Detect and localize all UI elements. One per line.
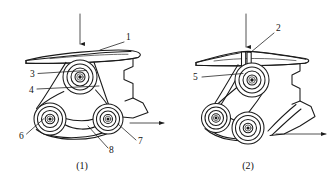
callout-number-8: 8	[109, 145, 114, 155]
callout-number-5: 5	[193, 72, 198, 82]
leader-2	[251, 33, 275, 53]
panel2-top-pulley	[235, 63, 269, 97]
callout-number-4: 4	[29, 85, 34, 95]
panel-2: 2 5 (2)	[193, 14, 326, 172]
figure-root: 1 3 4 6 7 8 (1)	[0, 0, 336, 185]
panel1-left-pulley	[34, 103, 66, 135]
leader-1	[100, 42, 124, 50]
panel-1: 1 3 4 6 7 8 (1)	[19, 14, 164, 172]
panel2-left-pulley	[202, 104, 231, 133]
panel1-housing-body	[122, 58, 148, 118]
panel-2-caption: (2)	[242, 160, 254, 172]
callout-number-2: 2	[276, 23, 281, 33]
panel2-lower-pulley	[232, 112, 264, 144]
panel1-right-pulley	[93, 104, 123, 134]
panel1-top-pulley	[63, 60, 97, 94]
callout-number-7: 7	[138, 136, 143, 146]
callout-number-3: 3	[30, 69, 35, 79]
callout-number-6: 6	[19, 131, 24, 141]
callout-number-1: 1	[126, 32, 131, 42]
panel-1-caption: (1)	[76, 160, 88, 172]
technical-diagram: 1 3 4 6 7 8 (1)	[0, 0, 336, 185]
leader-7	[118, 124, 136, 140]
panel2-housing-body	[268, 64, 315, 136]
